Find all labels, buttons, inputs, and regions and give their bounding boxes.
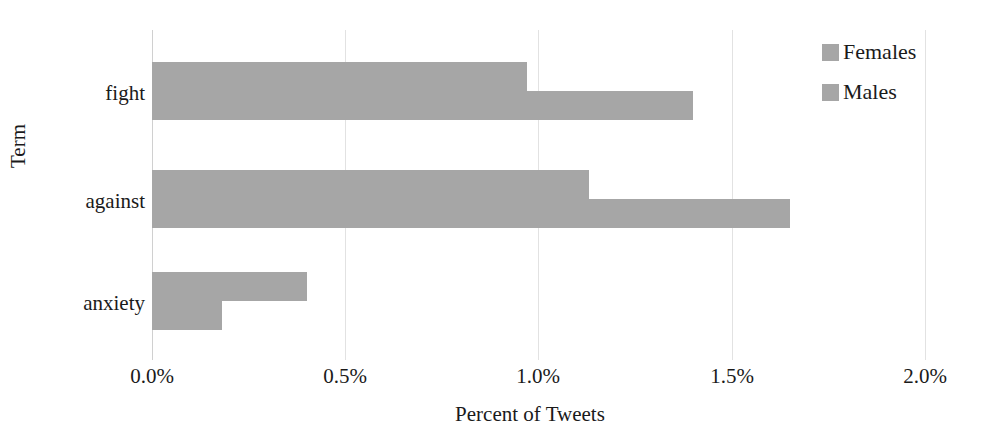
x-axis-title: Percent of Tweets <box>455 404 605 425</box>
bar-fight-females[interactable] <box>152 62 527 91</box>
plot-area <box>152 30 925 360</box>
bar-anxiety-males[interactable] <box>152 301 222 330</box>
bar-against-females[interactable] <box>152 170 589 199</box>
bar-fight-males[interactable] <box>152 91 693 120</box>
xtick-label-4: 2.0% <box>880 366 970 387</box>
legend-label-females: Females <box>843 41 916 63</box>
legend-swatch-females-icon <box>822 44 839 61</box>
bar-anxiety-females[interactable] <box>152 272 307 301</box>
ytick-label-fight: fight <box>5 83 145 104</box>
gridline-4 <box>925 30 926 360</box>
xtick-label-1: 0.5% <box>300 366 390 387</box>
y-axis-title: Term <box>8 124 29 168</box>
bar-group-fight <box>152 62 925 120</box>
bar-against-males[interactable] <box>152 199 790 228</box>
legend-swatch-males-icon <box>822 84 839 101</box>
xtick-label-2: 1.0% <box>493 366 583 387</box>
x-axis-title-wrap: Percent of Tweets <box>0 404 984 425</box>
ytick-label-against: against <box>5 191 145 212</box>
legend-item-females[interactable]: Females <box>822 32 916 72</box>
legend-label-males: Males <box>843 81 897 103</box>
bar-group-against <box>152 170 925 228</box>
legend: Females Males <box>822 32 916 112</box>
legend-item-males[interactable]: Males <box>822 72 916 112</box>
xtick-label-3: 1.5% <box>687 366 777 387</box>
bar-group-anxiety <box>152 272 925 330</box>
ytick-label-anxiety: anxiety <box>5 293 145 314</box>
bar-chart: fight against anxiety 0.0% 0.5% 1.0% 1.5… <box>0 0 984 448</box>
xtick-label-0: 0.0% <box>107 366 197 387</box>
